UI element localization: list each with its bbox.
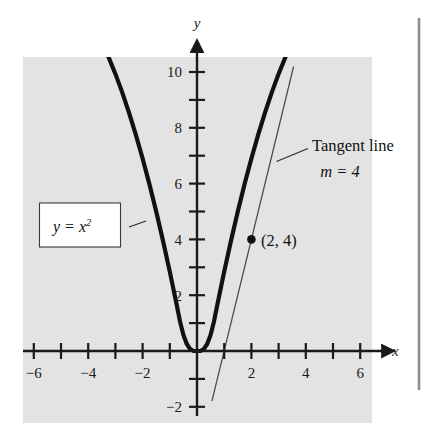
x-tick-label-neg2: −2 xyxy=(135,365,151,381)
parabola-tangent-figure: −6 −4 −2 2 4 6 −2 2 4 6 8 10 x y (2, 4) … xyxy=(0,0,429,434)
figure-container: −6 −4 −2 2 4 6 −2 2 4 6 8 10 x y (2, 4) … xyxy=(0,0,429,434)
x-axis-label: x xyxy=(391,343,399,359)
y-tick-label-4: 4 xyxy=(175,232,183,248)
x-tick-label-2: 2 xyxy=(248,365,256,381)
x-tick-label-neg4: −4 xyxy=(80,365,96,381)
y-tick-label-neg2: −2 xyxy=(166,399,182,415)
y-tick-label-8: 8 xyxy=(175,120,183,136)
tangent-slope-label: m = 4 xyxy=(320,162,360,181)
y-tick-label-6: 6 xyxy=(175,176,183,192)
equation-label-exponent: 2 xyxy=(86,217,92,228)
x-tick-label-6: 6 xyxy=(356,365,364,381)
x-tick-label-4: 4 xyxy=(302,365,310,381)
tangency-point-marker xyxy=(247,235,256,244)
y-tick-label-2: 2 xyxy=(175,288,183,304)
equation-label-text: y = x2 xyxy=(51,217,92,236)
x-tick-label-neg6: −6 xyxy=(26,365,42,381)
tangent-line-label: Tangent line xyxy=(312,136,394,155)
equation-label-base: y = x xyxy=(51,218,86,236)
y-tick-label-10: 10 xyxy=(167,64,182,80)
y-axis-label: y xyxy=(192,15,201,31)
tangency-point-label: (2, 4) xyxy=(261,231,297,250)
